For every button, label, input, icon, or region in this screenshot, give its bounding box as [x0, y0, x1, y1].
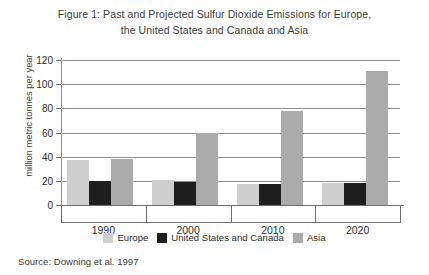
y-axis-tick-mark — [56, 60, 61, 61]
bar-group-2000 — [152, 60, 218, 205]
bar-2010-united-states-and-canada — [259, 184, 281, 205]
x-axis-category-separator — [400, 206, 401, 223]
bar-2000-asia — [196, 133, 218, 206]
bar-1990-asia — [111, 159, 133, 205]
y-axis-tick-labels: 020406080100120 — [17, 60, 53, 205]
y-axis-tick-mark — [56, 181, 61, 182]
legend-item-asia[interactable]: Asia — [293, 232, 326, 243]
bar-group-1990 — [67, 60, 133, 205]
y-axis-tick-mark — [56, 133, 61, 134]
y-axis-tick-label: 80 — [19, 103, 53, 114]
bar-group-2010 — [237, 60, 303, 205]
x-axis-category-separator — [61, 206, 62, 223]
x-axis-category-separator — [146, 206, 147, 223]
plot-area — [61, 60, 400, 205]
bar-2000-united-states-and-canada — [174, 182, 196, 205]
bar-1990-united-states-and-canada — [89, 181, 111, 205]
y-axis-tick-label: 0 — [19, 200, 53, 211]
source-note: Source: Downing et al. 1997 — [18, 256, 139, 267]
bar-2020-united-states-and-canada — [344, 183, 366, 205]
y-axis-tick-label: 40 — [19, 151, 53, 162]
x-axis-category-separator — [315, 206, 316, 223]
legend-swatch-europe — [103, 233, 113, 243]
chart-legend: EuropeUnited States and CanadaAsia — [0, 232, 429, 243]
legend-label-europe: Europe — [117, 232, 148, 243]
y-axis-tick-mark — [56, 157, 61, 158]
bar-2000-europe — [152, 180, 174, 205]
legend-item-united-states[interactable]: United States and Canada — [157, 232, 284, 243]
legend-swatch-united-states — [157, 233, 167, 243]
y-axis-tick-mark — [56, 108, 61, 109]
bar-group-2020 — [322, 60, 388, 205]
y-axis-tick-mark — [56, 84, 61, 85]
y-axis-tick-label: 20 — [19, 175, 53, 186]
bar-1990-europe — [67, 160, 89, 205]
y-axis-tick-label: 120 — [19, 55, 53, 66]
y-axis-tick-label: 60 — [19, 127, 53, 138]
figure-title: Figure 1: Past and Projected Sulfur Diox… — [0, 6, 429, 38]
x-axis-category-separator — [231, 206, 232, 223]
legend-label-united-states: United States and Canada — [171, 232, 284, 243]
figure-title-line-2: the United States and Canada and Asia — [0, 22, 429, 38]
figure-title-line-1: Figure 1: Past and Projected Sulfur Diox… — [0, 6, 429, 22]
bar-2020-asia — [366, 71, 388, 205]
y-axis-tick-label: 100 — [19, 79, 53, 90]
legend-label-asia: Asia — [307, 232, 326, 243]
legend-item-europe[interactable]: Europe — [103, 232, 148, 243]
bar-2010-asia — [281, 111, 303, 205]
bar-2010-europe — [237, 184, 259, 205]
legend-swatch-asia — [293, 233, 303, 243]
bar-2020-europe — [322, 183, 344, 205]
bar-chart: million metric tonnes per year 020406080… — [0, 48, 429, 230]
